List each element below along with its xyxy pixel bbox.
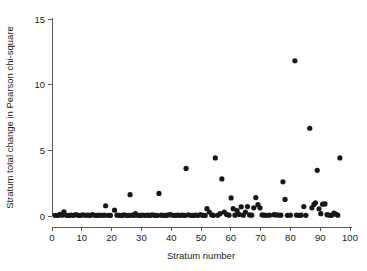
x-tick-label: 90 — [315, 232, 326, 243]
y-axis-title: Stratum total change in Pearson chi-squa… — [4, 26, 15, 209]
y-tick-label: 0 — [40, 211, 45, 222]
x-tick-label: 0 — [49, 232, 54, 243]
x-tick-label: 20 — [106, 232, 117, 243]
data-point — [239, 204, 244, 209]
data-point — [249, 213, 254, 218]
x-tick-label: 50 — [196, 232, 207, 243]
data-point — [318, 211, 323, 216]
data-point — [322, 201, 327, 206]
data-point — [251, 205, 256, 210]
data-point — [316, 206, 321, 211]
data-point — [219, 176, 224, 181]
data-point — [229, 195, 234, 200]
data-points-group — [52, 58, 342, 218]
data-point — [299, 213, 304, 218]
y-tick-label: 15 — [34, 14, 45, 25]
x-axis-title: Stratum number — [167, 250, 235, 261]
plot-canvas: 051015 0102030405060708090100 Stratum nu… — [0, 0, 367, 271]
y-axis-ticks: 051015 — [34, 14, 52, 222]
data-point — [301, 204, 306, 209]
data-point — [127, 192, 132, 197]
y-tick-label: 5 — [40, 145, 45, 156]
data-point — [253, 195, 258, 200]
data-point — [288, 213, 293, 218]
data-point — [112, 208, 117, 213]
data-point — [267, 213, 272, 218]
data-point — [303, 213, 308, 218]
data-point — [315, 168, 320, 173]
data-point — [226, 213, 231, 218]
x-tick-label: 70 — [255, 232, 266, 243]
data-point — [282, 197, 287, 202]
scatter-plot-figure: 051015 0102030405060708090100 Stratum nu… — [0, 0, 367, 271]
x-axis-ticks: 0102030405060708090100 — [49, 227, 358, 243]
data-point — [257, 205, 262, 210]
data-point — [337, 155, 342, 160]
data-point — [108, 213, 113, 218]
data-point — [184, 166, 189, 171]
data-point — [307, 126, 312, 131]
x-tick-label: 100 — [342, 232, 358, 243]
x-tick-label: 30 — [136, 232, 147, 243]
data-point — [292, 58, 297, 63]
x-tick-label: 10 — [77, 232, 88, 243]
x-tick-label: 80 — [285, 232, 296, 243]
x-tick-label: 40 — [166, 232, 177, 243]
data-point — [156, 191, 161, 196]
data-point — [313, 200, 318, 205]
data-point — [203, 213, 208, 218]
data-point — [213, 155, 218, 160]
data-point — [335, 213, 340, 218]
axes-group — [52, 18, 352, 227]
data-point — [245, 204, 250, 209]
y-tick-label: 10 — [34, 79, 45, 90]
data-point — [280, 179, 285, 184]
data-point — [278, 213, 283, 218]
x-tick-label: 60 — [226, 232, 237, 243]
data-point — [103, 203, 108, 208]
